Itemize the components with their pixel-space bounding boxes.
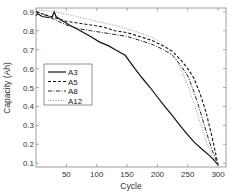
x-tick-label: 250 [181, 170, 195, 179]
y-tick-label: 0.4 [23, 102, 35, 111]
y-tick-label: 0.2 [23, 140, 35, 149]
x-tick-label: 100 [90, 170, 104, 179]
x-tick-label: 200 [151, 170, 165, 179]
legend-label-a8: A8 [68, 87, 78, 96]
legend-label-a5: A5 [68, 78, 78, 87]
y-tick-label: 0.3 [23, 121, 35, 130]
y-tick-label: 0.5 [23, 84, 35, 93]
legend-label-a3: A3 [68, 68, 78, 77]
x-axis-label: Cycle [120, 181, 142, 191]
capacity-chart: 0.10.20.30.40.50.60.70.80.9 501001502002… [0, 0, 239, 194]
x-tick-label: 300 [211, 170, 225, 179]
x-tick-label: 150 [120, 170, 134, 179]
y-tick-label: 0.7 [23, 46, 35, 55]
y-tick-label: 0.6 [23, 65, 35, 74]
x-tick-label: 50 [62, 170, 71, 179]
legend: A3A5A8A12 [44, 64, 92, 106]
y-tick-label: 0.9 [23, 8, 35, 17]
y-axis-label: Capacity (Ah) [2, 62, 12, 114]
legend-label-a12: A12 [68, 97, 83, 106]
y-tick-label: 0.8 [23, 27, 35, 36]
y-tick-label: 0.1 [23, 159, 35, 168]
